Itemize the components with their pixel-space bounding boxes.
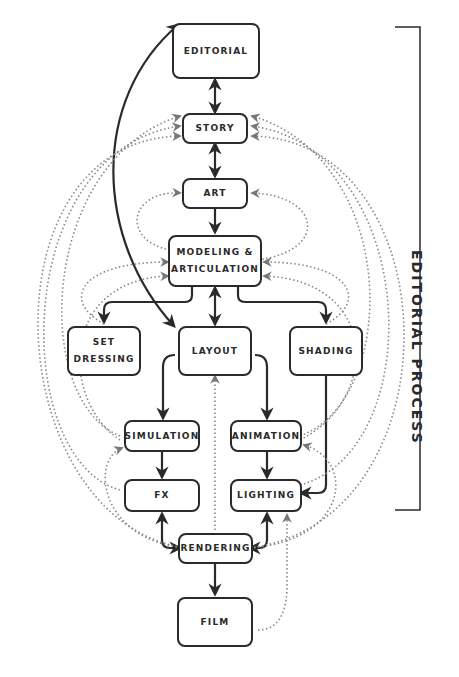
node-lighting: LIGHTING — [230, 479, 302, 512]
node-fx: FX — [124, 479, 200, 512]
node-film: FILM — [177, 597, 253, 647]
node-editorial: EDITORIAL — [172, 23, 260, 79]
node-shading: SHADING — [289, 326, 363, 376]
node-rendering: RENDERING — [178, 533, 253, 564]
editorial-process-label: EDITORIAL PROCESS — [409, 250, 425, 490]
node-simulation: SIMULATION — [124, 420, 200, 452]
node-set-dressing: SET DRESSING — [67, 326, 141, 376]
node-layout: LAYOUT — [178, 326, 252, 376]
node-story: STORY — [182, 113, 248, 144]
node-modeling-articulation: MODELING & ARTICULATION — [168, 235, 262, 287]
node-art: ART — [182, 178, 248, 209]
node-animation: ANIMATION — [230, 420, 302, 452]
